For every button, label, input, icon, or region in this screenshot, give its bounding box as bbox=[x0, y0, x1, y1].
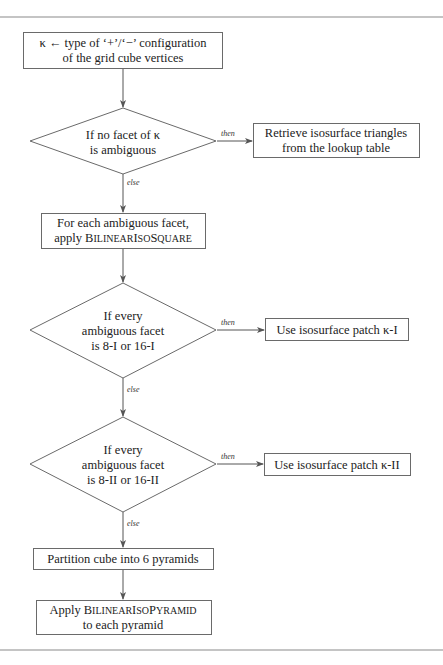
node-decision1: If no facet of κ is ambiguous bbox=[30, 108, 216, 174]
node-apply-square: For each ambiguous facet, apply BILINEAR… bbox=[42, 214, 206, 249]
node-decision2-line2: ambiguous facet bbox=[82, 324, 165, 338]
node-decision2-line3: is 8-I or 16-I bbox=[91, 339, 155, 353]
node-decision1-line2: is ambiguous bbox=[90, 143, 156, 157]
then-label-2: then bbox=[221, 318, 235, 327]
then-label-1: then bbox=[221, 129, 235, 138]
else-label-2: else bbox=[127, 385, 140, 394]
node-patch1-line1: Use isosurface patch κ-I bbox=[276, 323, 397, 337]
node-decision3-line3: is 8-II or 16-II bbox=[87, 473, 159, 487]
node-partition: Partition cube into 6 pyramids bbox=[34, 549, 214, 570]
node-apply-pyramid-line1: Apply BILINEARISOPYRAMID bbox=[49, 603, 196, 617]
node-lookup: Retrieve isosurface triangles from the l… bbox=[254, 124, 420, 158]
then-label-3: then bbox=[221, 452, 235, 461]
node-apply-square-line2: apply BILINEARISOSQUARE bbox=[54, 231, 192, 245]
node-decision2-line1: If every bbox=[103, 309, 143, 323]
node-apply-pyramid-line2: to each pyramid bbox=[83, 618, 164, 632]
node-start-line2: of the grid cube vertices bbox=[63, 51, 184, 65]
node-decision1-line1: If no facet of κ bbox=[86, 128, 161, 142]
node-decision3-line1: If every bbox=[103, 443, 143, 457]
node-apply-pyramid: Apply BILINEARISOPYRAMID to each pyramid bbox=[37, 601, 212, 635]
node-partition-line1: Partition cube into 6 pyramids bbox=[47, 552, 199, 566]
node-patch2-line1: Use isosurface patch κ-II bbox=[274, 458, 399, 472]
node-decision3-line2: ambiguous facet bbox=[82, 458, 165, 472]
node-lookup-line1: Retrieve isosurface triangles bbox=[265, 126, 407, 140]
node-decision2: If every ambiguous facet is 8-I or 16-I bbox=[30, 283, 216, 378]
node-lookup-line2: from the lookup table bbox=[282, 141, 390, 155]
node-start: κ ← type of ‘+’/‘−’ configuration of the… bbox=[24, 33, 223, 69]
else-label-1: else bbox=[127, 178, 140, 187]
node-patch2: Use isosurface patch κ-II bbox=[265, 454, 411, 476]
node-decision3: If every ambiguous facet is 8-II or 16-I… bbox=[30, 417, 216, 512]
else-label-3: else bbox=[127, 519, 140, 528]
flowchart: then else then else then else κ ← type o… bbox=[0, 0, 443, 665]
node-patch1: Use isosurface patch κ-I bbox=[266, 319, 409, 341]
node-start-line1: κ ← type of ‘+’/‘−’ configuration bbox=[40, 36, 208, 50]
node-apply-square-line1: For each ambiguous facet, bbox=[57, 216, 189, 230]
